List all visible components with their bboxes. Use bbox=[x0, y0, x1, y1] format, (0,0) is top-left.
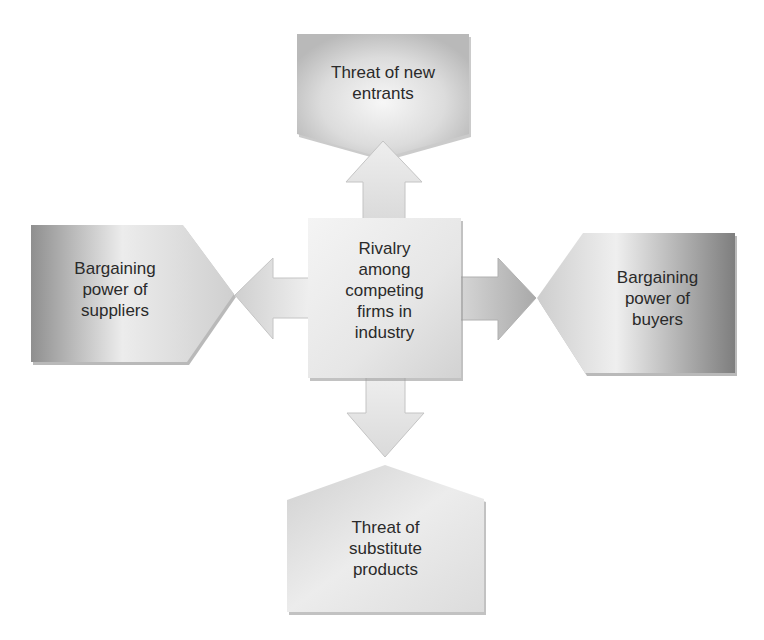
right-label-line-2: power of bbox=[580, 288, 735, 309]
top-label-line-1: Threat of new bbox=[297, 62, 469, 83]
left-label-line-1: Bargaining bbox=[40, 258, 190, 279]
center-label-line-2: among bbox=[308, 259, 461, 280]
right-label-line-1: Bargaining bbox=[580, 267, 735, 288]
arrow-left-icon bbox=[235, 258, 310, 339]
center-label-line-1: Rivalry bbox=[308, 238, 461, 259]
top-box-label: Threat of new entrants bbox=[297, 62, 469, 104]
bottom-label-line-1: Threat of bbox=[287, 517, 484, 538]
left-box-label: Bargaining power of suppliers bbox=[40, 258, 190, 321]
center-box-label: Rivalry among competing firms in industr… bbox=[308, 238, 461, 343]
center-label-line-4: firms in bbox=[308, 301, 461, 322]
bottom-box-label: Threat of substitute products bbox=[287, 517, 484, 580]
right-label-line-3: buyers bbox=[580, 309, 735, 330]
arrow-down-icon bbox=[347, 376, 424, 457]
center-label-line-3: competing bbox=[308, 280, 461, 301]
bottom-label-line-2: substitute bbox=[287, 538, 484, 559]
center-label-line-5: industry bbox=[308, 322, 461, 343]
bottom-label-line-3: products bbox=[287, 559, 484, 580]
right-box-label: Bargaining power of buyers bbox=[580, 267, 735, 330]
left-label-line-2: power of bbox=[40, 279, 190, 300]
top-label-line-2: entrants bbox=[297, 83, 469, 104]
left-label-line-3: suppliers bbox=[40, 300, 190, 321]
arrow-right-icon bbox=[459, 258, 536, 340]
